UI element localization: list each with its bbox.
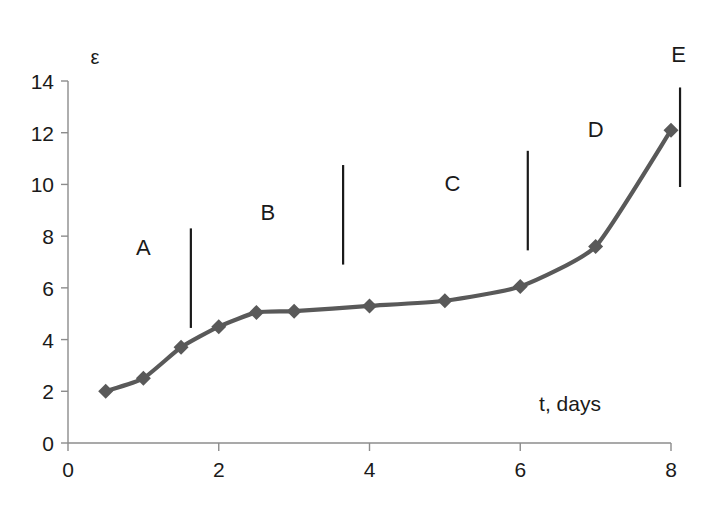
y-axis-tick-label: 12 [0, 122, 54, 143]
y-axis-tick-label: 2 [0, 381, 54, 402]
y-axis-tick-label: 10 [0, 174, 54, 195]
region-label-b: B [260, 202, 275, 224]
x-axis-tick-label: 6 [514, 459, 526, 480]
chart-canvas [0, 0, 707, 510]
y-axis-tick-label: 14 [0, 71, 54, 92]
data-point-markers [98, 123, 678, 399]
y-axis-title: ε [91, 47, 100, 67]
y-axis-tick-label: 4 [0, 329, 54, 350]
y-axis-tick-label: 0 [0, 433, 54, 454]
x-axis-tick-label: 8 [665, 459, 677, 480]
region-label-d: D [588, 119, 604, 141]
x-axis-title: t, days [539, 393, 601, 414]
region-label-e: E [671, 44, 686, 66]
strain-time-chart: 02468101214 02468 ABCDE ε t, days [0, 0, 707, 510]
y-axis-tick-label: 8 [0, 226, 54, 247]
region-label-c: C [444, 173, 460, 195]
x-axis-tick-label: 2 [213, 459, 225, 480]
region-label-a: A [136, 237, 151, 259]
y-axis-tick-label: 6 [0, 277, 54, 298]
x-axis-tick-label: 0 [62, 459, 74, 480]
x-axis-tick-label: 4 [364, 459, 376, 480]
